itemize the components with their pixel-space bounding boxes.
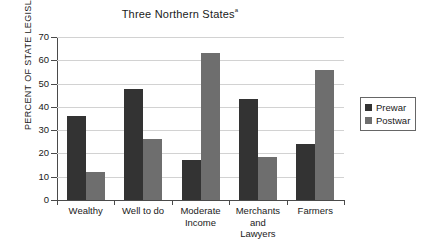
chart-title-text: Three Northern States	[122, 8, 235, 20]
y-axis-tick	[51, 153, 57, 154]
x-axis-category-label: ModerateIncome	[168, 205, 233, 228]
legend-label-prewar: Prewar	[376, 102, 406, 113]
bar-chart: Three Northern Statesa PERCENT OF STATE …	[0, 0, 429, 250]
bar-prewar	[182, 160, 201, 200]
gridline	[57, 37, 344, 38]
legend-item-prewar: Prewar	[365, 101, 410, 114]
y-axis-tick	[51, 107, 57, 108]
y-axis-tick	[51, 84, 57, 85]
x-axis-category-label: Wealthy	[53, 205, 118, 217]
y-axis-tick-label: 40	[29, 102, 49, 112]
bar-postwar	[143, 139, 162, 200]
plot-area	[57, 37, 344, 200]
chart-title: Three Northern Statesa	[0, 8, 360, 20]
bar-prewar	[124, 89, 143, 200]
x-axis-category-label: Farmers	[283, 205, 348, 217]
bar-postwar	[201, 53, 220, 200]
y-axis-tick-label: 20	[29, 148, 49, 158]
y-axis-tick	[51, 177, 57, 178]
y-axis-tick-label: 50	[29, 79, 49, 89]
bar-postwar	[258, 157, 277, 200]
y-axis-tick-label: 70	[29, 32, 49, 42]
legend-label-postwar: Postwar	[376, 115, 410, 126]
gridline	[57, 200, 344, 201]
y-axis-tick-label: 0	[29, 195, 49, 205]
x-axis-category-label: MerchantsandLawyers	[225, 205, 290, 240]
y-axis-title: PERCENT OF STATE LEGISLATORS	[23, 0, 37, 134]
bar-prewar	[67, 116, 86, 200]
legend-item-postwar: Postwar	[365, 114, 410, 127]
y-axis-tick	[51, 130, 57, 131]
y-axis-tick-label: 60	[29, 55, 49, 65]
bar-prewar	[239, 99, 258, 200]
legend-swatch-prewar-icon	[365, 104, 372, 111]
chart-title-footnote-marker: a	[235, 7, 239, 13]
bar-postwar	[86, 172, 105, 200]
y-axis-tick	[51, 60, 57, 61]
bar-prewar	[296, 144, 315, 200]
legend-swatch-postwar-icon	[365, 117, 372, 124]
bar-postwar	[315, 70, 334, 200]
x-axis-category-label: Well to do	[110, 205, 175, 217]
y-axis-tick-label: 30	[29, 125, 49, 135]
y-axis-tick-label: 10	[29, 172, 49, 182]
y-axis-tick	[51, 37, 57, 38]
chart-legend: Prewar Postwar	[360, 97, 416, 131]
